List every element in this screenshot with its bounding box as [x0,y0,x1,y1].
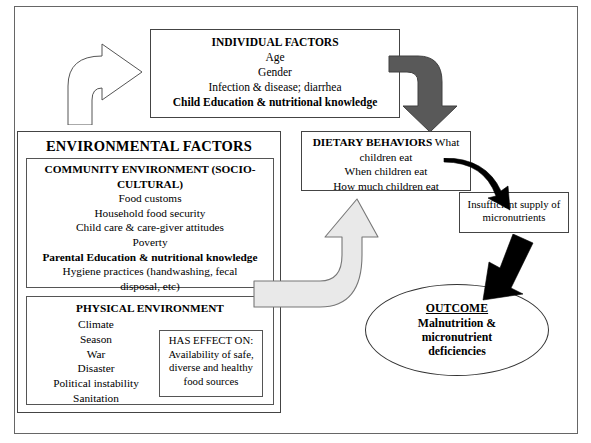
physical-line-sanitation: Sanitation [31,391,161,406]
community-line-poverty: Poverty [27,235,273,250]
physical-environment-list: Climate Season War Disaster Political in… [31,317,161,406]
insufficient-supply-box: Insufficient supply of micronutrients [459,192,569,233]
community-line-household-food-security: Household food security [27,206,273,221]
community-line-food-customs: Food customs [27,191,273,206]
community-environment-heading-line2: CULTURAL) [27,177,273,192]
physical-line-disaster: Disaster [31,361,161,376]
physical-line-political-instability: Political instability [31,376,161,391]
insufficient-supply-line-2: micronutrients [460,211,568,224]
dietary-behaviors-box: DIETARY BEHAVIORS What children eat When… [301,131,471,191]
dietary-behaviors-line-what: What [432,136,459,148]
dietary-behaviors-line-children-eat: children eat [302,150,470,165]
individual-factors-line-age: Age [151,50,399,65]
individual-factors-line-education: Child Education & nutritional knowledge [151,95,399,110]
dietary-behaviors-line-when: When children eat [302,164,470,179]
community-line-hygiene-1: Hygiene practices (handwashing, fecal [27,264,273,279]
outcome-ellipse: OUTCOME Malnutrition & micronutrient def… [365,284,549,376]
environmental-factors-box: ENVIRONMENTAL FACTORS COMMUNITY ENVIRONM… [17,131,281,413]
has-effect-line-3: food sources [160,375,262,389]
has-effect-heading: HAS EFFECT ON: [160,334,262,348]
community-environment-heading-line1: COMMUNITY ENVIRONMENT (SOCIO- [27,162,273,177]
has-effect-line-2: diverse and healthy [160,361,262,375]
community-line-hygiene-2: disposal, etc) [27,279,273,294]
community-line-child-care: Child care & care-giver attitudes [27,220,273,235]
individual-factors-line-gender: Gender [151,65,399,80]
outcome-line-3: deficiencies [428,344,486,358]
has-effect-on-box: HAS EFFECT ON: Availability of safe, div… [159,330,263,397]
outcome-line-1: Malnutrition & [418,316,496,330]
outcome-line-2: micronutrient [422,330,493,344]
physical-line-war: War [31,347,161,362]
dietary-behaviors-heading: DIETARY BEHAVIORS [313,136,433,148]
insufficient-supply-line-1: Insufficient supply of [460,198,568,211]
has-effect-line-1: Availability of safe, [160,348,262,362]
dietary-behaviors-line-how-much: How much children eat [302,179,470,194]
community-environment-box: COMMUNITY ENVIRONMENT (SOCIO- CULTURAL) … [26,158,274,288]
individual-factors-box: INDIVIDUAL FACTORS Age Gender Infection … [150,29,400,118]
diagram-canvas: INDIVIDUAL FACTORS Age Gender Infection … [0,0,591,443]
physical-line-climate: Climate [31,317,161,332]
physical-environment-heading: PHYSICAL ENVIRONMENT [27,301,273,316]
community-line-parental-education: Parental Education & nutritional knowled… [27,250,273,265]
outcome-heading: OUTCOME [426,301,488,315]
physical-environment-box: PHYSICAL ENVIRONMENT Climate Season War … [26,296,274,405]
individual-factors-line-infection: Infection & disease; diarrhea [151,80,399,95]
individual-factors-heading: INDIVIDUAL FACTORS [151,35,399,50]
environmental-factors-heading: ENVIRONMENTAL FACTORS [18,138,280,155]
physical-line-season: Season [31,332,161,347]
